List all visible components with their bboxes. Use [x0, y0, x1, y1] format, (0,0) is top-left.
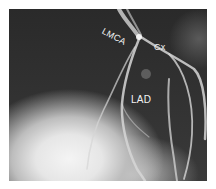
cx-label: Cx	[154, 42, 165, 52]
lad-label: LAD	[131, 94, 151, 105]
angiogram-image: LMCA Cx LAD	[9, 9, 207, 181]
